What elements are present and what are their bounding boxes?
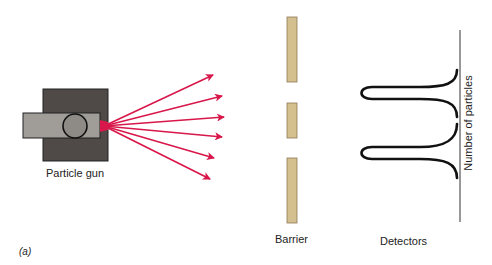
barrier-bottom bbox=[287, 158, 297, 223]
distribution-curves bbox=[362, 70, 458, 178]
barrier-middle bbox=[287, 103, 297, 138]
particle-gun bbox=[23, 89, 108, 161]
gun-tube bbox=[23, 113, 100, 138]
particle-arrows bbox=[100, 75, 224, 179]
detectors-label: Detectors bbox=[380, 235, 427, 247]
barrier bbox=[287, 17, 297, 223]
diagram-canvas bbox=[0, 0, 492, 265]
number-of-particles-axis-label: Number of particles bbox=[462, 75, 474, 170]
gun-source-circle bbox=[63, 114, 87, 138]
particle-gun-label: Particle gun bbox=[46, 167, 104, 179]
figure-panel-label: (a) bbox=[19, 246, 31, 257]
barrier-top bbox=[287, 17, 297, 82]
barrier-label: Barrier bbox=[275, 233, 308, 245]
upper-peak-curve bbox=[362, 70, 458, 117]
lower-peak-curve bbox=[362, 124, 458, 178]
